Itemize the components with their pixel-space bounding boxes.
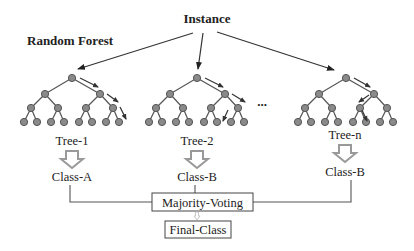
- down-arrow-icon: [186, 151, 208, 168]
- decision-path-arrow: [232, 94, 245, 102]
- final-class-label: Final-Class: [170, 223, 227, 237]
- decision-path-arrow: [205, 78, 223, 87]
- tree-2-label: Tree-2: [181, 134, 214, 148]
- random-forest-diagram: Instance Random Forest: [0, 0, 414, 251]
- down-arrow-icon: [194, 212, 200, 220]
- tree-1-graph: [20, 74, 126, 125]
- tree-n-label: Tree-n: [329, 128, 363, 142]
- down-arrow-icon: [61, 151, 83, 168]
- ellipsis: ...: [257, 94, 267, 109]
- decision-path-arrow: [354, 78, 370, 87]
- decision-path-arrow: [120, 107, 126, 119]
- decision-path-arrow: [80, 78, 98, 87]
- tree-2-class: Class-B: [177, 170, 217, 184]
- arrow-to-tree-n: [217, 32, 334, 70]
- decision-path-arrow: [223, 110, 228, 121]
- decision-path-arrow: [107, 94, 118, 102]
- arrow-to-tree-2: [198, 33, 203, 69]
- tree-1-class: Class-A: [52, 170, 92, 184]
- instance-label: Instance: [184, 11, 231, 26]
- connector-tree-1: [70, 185, 152, 202]
- final-class-box: Final-Class: [165, 221, 231, 238]
- instance-arrows: [78, 32, 334, 70]
- tree-n-class: Class-B: [325, 165, 365, 179]
- tree-n-graph: [294, 74, 396, 125]
- tree-2-graph: [145, 74, 247, 125]
- random-forest-title: Random Forest: [27, 33, 114, 48]
- majority-voting-box: Majority-Voting: [152, 193, 253, 211]
- tree-1-label: Tree-1: [56, 134, 89, 148]
- connector-tree-n: [253, 180, 351, 202]
- majority-voting-label: Majority-Voting: [162, 196, 244, 210]
- down-arrow-icon: [334, 145, 356, 162]
